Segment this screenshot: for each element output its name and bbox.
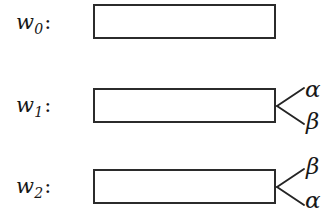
branch-lines-w1 bbox=[274, 84, 308, 128]
branch-line-w2-upper bbox=[277, 169, 304, 187]
branch-lines-w2 bbox=[274, 165, 308, 209]
row-label-w2: w2: bbox=[16, 176, 51, 197]
branch-line-w2-lower bbox=[277, 187, 304, 205]
word-box-w2 bbox=[93, 169, 276, 204]
branch-line-w1-upper bbox=[277, 88, 304, 106]
branch-label-w2-upper: β bbox=[306, 155, 319, 178]
row-label-w2-word: w bbox=[16, 174, 34, 198]
row-label-w1-word: w bbox=[16, 93, 34, 117]
branch-line-w1-lower bbox=[277, 106, 304, 124]
row-label-w2-subscript: 2 bbox=[34, 185, 43, 201]
row-label-w1: w1: bbox=[16, 95, 51, 116]
branch-label-w1-lower: β bbox=[306, 110, 319, 133]
figure-canvas: w0: w1: α β w2: β α bbox=[0, 0, 333, 222]
branch-label-w1-upper: α bbox=[305, 78, 321, 101]
row-label-w1-subscript: 1 bbox=[34, 104, 43, 120]
diagram-row-w0: w0: bbox=[0, 0, 333, 60]
row-label-w2-colon: : bbox=[44, 174, 51, 198]
row-label-w0-subscript: 0 bbox=[34, 21, 43, 37]
word-box-w0 bbox=[93, 4, 276, 39]
row-label-w0-colon: : bbox=[44, 10, 51, 34]
row-label-w0: w0: bbox=[16, 12, 51, 33]
branch-label-w2-lower: α bbox=[305, 189, 321, 212]
row-label-w1-colon: : bbox=[44, 93, 51, 117]
word-box-w1 bbox=[93, 88, 276, 123]
row-label-w0-word: w bbox=[16, 10, 34, 34]
